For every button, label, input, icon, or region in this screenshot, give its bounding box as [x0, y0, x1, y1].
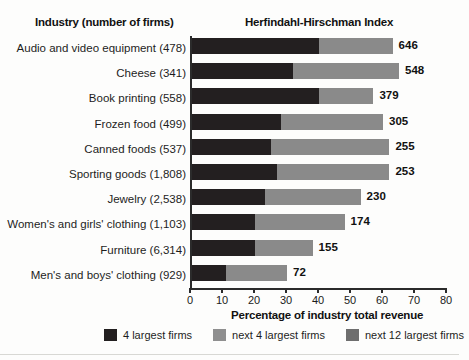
stacked-bar: [191, 88, 373, 104]
bar-value-label: 646: [399, 39, 418, 51]
category-label: Women's and girls' clothing (1,103): [0, 216, 186, 232]
bar-segment-2: [319, 38, 393, 54]
x-tick-label-40: 40: [312, 294, 324, 306]
hhi-column-header: Herfindahl-Hirschman Index: [245, 16, 393, 28]
table-row: Women's and girls' clothing (1,103)174: [0, 212, 459, 237]
x-tick-label-0: 0: [187, 294, 193, 306]
table-row: Audio and video equipment (478)646: [0, 36, 459, 61]
bar-segment-1: [191, 114, 281, 130]
bar-value-label: 72: [293, 266, 306, 278]
stacked-bar: [191, 265, 287, 281]
category-label: Book printing (558): [0, 90, 186, 106]
x-tick-20: [253, 288, 254, 293]
bar-segment-2: [271, 139, 389, 155]
x-tick-label-30: 30: [280, 294, 292, 306]
bar-value-label: 305: [389, 115, 408, 127]
x-tick-50: [349, 288, 350, 293]
table-row: Jewelry (2,538)230: [0, 187, 459, 212]
legend-item: next 12 largest firms: [346, 329, 464, 341]
stacked-bar: [191, 240, 313, 256]
chart-legend: 4 largest firmsnext 4 largest firmsnext …: [104, 329, 469, 341]
stacked-bar: [191, 139, 389, 155]
table-row: Furniture (6,314)155: [0, 238, 459, 263]
bar-segment-1: [191, 214, 255, 230]
bar-segment-1: [191, 265, 226, 281]
x-tick-40: [317, 288, 318, 293]
legend-item: 4 largest firms: [104, 329, 192, 341]
stacked-bar: [191, 114, 383, 130]
bar-value-label: 155: [319, 241, 338, 253]
bar-value-label: 253: [395, 165, 414, 177]
legend-swatch-icon: [104, 329, 117, 341]
stacked-bar: [191, 164, 389, 180]
bar-segment-2: [255, 240, 313, 256]
legend-swatch-icon: [213, 329, 226, 341]
bar-segment-2: [265, 189, 361, 205]
bar-segment-2: [277, 164, 389, 180]
bar-segment-1: [191, 88, 319, 104]
bar-segment-1: [191, 139, 271, 155]
legend-label: next 4 largest firms: [232, 329, 325, 341]
x-axis-label: Percentage of industry total revenue: [231, 309, 423, 321]
legend-item: next 4 largest firms: [213, 329, 325, 341]
legend-label: 4 largest firms: [123, 329, 192, 341]
category-label: Furniture (6,314): [0, 242, 186, 258]
x-tick-label-70: 70: [408, 294, 420, 306]
category-label: Canned foods (537): [0, 141, 186, 157]
bar-value-label: 379: [379, 89, 398, 101]
x-tick-label-80: 80: [440, 294, 452, 306]
bar-segment-1: [191, 63, 293, 79]
category-label: Jewelry (2,538): [0, 191, 186, 207]
bar-value-label: 230: [367, 190, 386, 202]
x-tick-label-10: 10: [216, 294, 228, 306]
bar-segment-1: [191, 189, 265, 205]
bar-segment-1: [191, 240, 255, 256]
category-label: Sporting goods (1,808): [0, 166, 186, 182]
table-row: Sporting goods (1,808)253: [0, 162, 459, 187]
x-tick-0: [189, 288, 190, 293]
bar-value-label: 174: [351, 215, 370, 227]
x-tick-60: [381, 288, 382, 293]
bar-value-label: 255: [395, 140, 414, 152]
industry-column-header: Industry (number of firms): [35, 16, 174, 28]
x-tick-10: [221, 288, 222, 293]
stacked-bar: [191, 189, 361, 205]
category-label: Audio and video equipment (478): [0, 40, 186, 56]
bar-segment-2: [281, 114, 383, 130]
x-tick-70: [413, 288, 414, 293]
category-label: Cheese (341): [0, 65, 186, 81]
table-row: Men's and boys' clothing (929)72: [0, 263, 459, 288]
bar-value-label: 548: [405, 64, 424, 76]
table-row: Frozen food (499)305: [0, 112, 459, 137]
legend-swatch-icon: [346, 329, 359, 341]
category-label: Men's and boys' clothing (929): [0, 267, 186, 283]
x-tick-30: [285, 288, 286, 293]
legend-label: next 12 largest firms: [365, 329, 464, 341]
bar-segment-2: [319, 88, 373, 104]
category-label: Frozen food (499): [0, 116, 186, 132]
x-tick-label-50: 50: [344, 294, 356, 306]
bar-segment-1: [191, 38, 319, 54]
table-row: Canned foods (537)255: [0, 137, 459, 162]
bar-segment-1: [191, 164, 277, 180]
legend-divider: [0, 354, 459, 355]
y-axis-line: [190, 36, 192, 288]
stacked-bar: [191, 63, 399, 79]
stacked-bar: [191, 214, 345, 230]
stacked-bar: [191, 38, 393, 54]
bar-segment-2: [226, 265, 287, 281]
x-tick-label-20: 20: [248, 294, 260, 306]
table-row: Book printing (558)379: [0, 86, 459, 111]
bar-segment-2: [293, 63, 399, 79]
x-tick-80: [445, 288, 446, 293]
bar-segment-2: [255, 214, 345, 230]
table-row: Cheese (341)548: [0, 61, 459, 86]
x-tick-label-60: 60: [376, 294, 388, 306]
